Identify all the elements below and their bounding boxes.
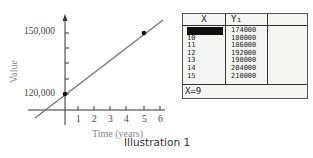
x-cell: 15 xyxy=(187,73,223,81)
calculator-table-screen: X Y₁ 9174000 10180000 11186000 12192000 … xyxy=(182,13,308,99)
table-rows: 9174000 10180000 11186000 12192000 13198… xyxy=(183,27,307,80)
y-axis-arrow-icon xyxy=(63,14,68,21)
x-tick-4: 4 xyxy=(124,114,129,124)
y-tick-120000: 120,000 xyxy=(24,88,55,98)
line-graph xyxy=(0,0,180,158)
figure-caption: Illustration 1 xyxy=(124,136,190,148)
table-header: X Y₁ xyxy=(183,14,307,26)
x-tick-1: 1 xyxy=(76,114,81,124)
data-point-year-5 xyxy=(142,31,147,36)
y-tick-150000: 150,000 xyxy=(24,26,55,36)
y-axis-label: Value xyxy=(8,60,19,83)
y-cell: 210000 xyxy=(231,73,256,81)
column-header-x: X xyxy=(183,14,225,25)
x-tick-3: 3 xyxy=(108,114,113,124)
x-tick-2: 2 xyxy=(92,114,97,124)
table-row: 15210000 xyxy=(183,73,307,81)
data-point-year-0 xyxy=(63,92,68,97)
status-line: X=9 xyxy=(183,84,307,98)
column-header-y1: Y₁ xyxy=(227,14,267,25)
x-tick-5: 5 xyxy=(142,114,147,124)
x-tick-6: 6 xyxy=(158,114,163,124)
